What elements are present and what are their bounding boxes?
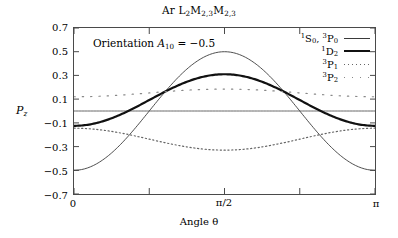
series-4 bbox=[74, 89, 375, 97]
legend-key-solid-thick-icon bbox=[344, 46, 370, 57]
y-tick-0: 0.7 bbox=[20, 22, 68, 33]
legend-label-1d2: 1D2 bbox=[321, 46, 338, 57]
legend-key-dotted-fine-icon bbox=[344, 59, 370, 70]
y-tick-1: 0.5 bbox=[20, 46, 68, 57]
x-axis-label: Angle θ bbox=[0, 216, 398, 227]
legend-entry-3p1: 3P1 bbox=[301, 58, 370, 71]
legend-label-3p1: 3P1 bbox=[323, 59, 338, 70]
legend-entry-1s0-3p0: 1S0, 3P0 bbox=[301, 32, 370, 45]
y-tick-2: 0.3 bbox=[20, 70, 68, 81]
y-tick-4: −0.1 bbox=[20, 118, 68, 129]
figure-plot-pz-vs-angle: Ar L2M2,3M2,3 Pz 0.7 0.5 0.3 0.1 −0.1 −0… bbox=[0, 0, 398, 238]
x-tick-0: 0 bbox=[53, 198, 93, 209]
legend-key-dotted-sparse-icon bbox=[344, 72, 370, 83]
y-tick-5: −0.3 bbox=[20, 142, 68, 153]
x-tick-pi: π bbox=[356, 198, 396, 209]
legend-label-3p2: 3P2 bbox=[323, 72, 338, 83]
x-tick-pi-2: π/2 bbox=[204, 197, 244, 208]
orientation-annotation: Orientation A10 = −0.5 bbox=[93, 37, 215, 49]
legend-entry-1d2: 1D2 bbox=[301, 45, 370, 58]
y-tick-3: 0.1 bbox=[20, 94, 68, 105]
y-axis-label: Pz bbox=[16, 104, 27, 117]
legend-label-1s0-3p0: 1S0, 3P0 bbox=[301, 33, 338, 44]
chart-title: Ar L2M2,3M2,3 bbox=[0, 4, 398, 16]
orientation-symbol: A bbox=[157, 37, 165, 49]
legend-key-solid-thin-icon bbox=[344, 33, 370, 44]
legend: 1S0, 3P0 1D2 3P1 3P2 bbox=[301, 32, 370, 84]
legend-entry-3p2: 3P2 bbox=[301, 71, 370, 84]
y-tick-6: −0.5 bbox=[20, 166, 68, 177]
series-3 bbox=[74, 128, 375, 150]
plot-area: Orientation A10 = −0.5 1S0, 3P0 1D2 3P1 bbox=[73, 27, 376, 195]
